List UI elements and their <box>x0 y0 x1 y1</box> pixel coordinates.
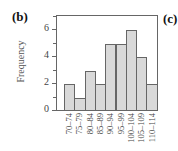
histogram-plot-area <box>56 15 158 111</box>
y-axis-label: Frequency <box>15 32 26 92</box>
x-tick-label: 85–89 <box>95 113 105 134</box>
x-tick-label: 95–99 <box>116 113 126 134</box>
x-tick-label: 110–114 <box>147 113 157 142</box>
y-tick-label: 6 <box>37 22 49 33</box>
panel-label-b: (b) <box>12 9 28 25</box>
x-tick-label: 70–74 <box>64 113 74 134</box>
y-major-tick <box>52 83 56 84</box>
panel-label-c: (c) <box>163 11 177 27</box>
y-minor-tick <box>53 16 56 17</box>
y-minor-tick <box>53 43 56 44</box>
y-tick-label: 4 <box>37 49 49 60</box>
y-minor-tick <box>53 97 56 98</box>
y-major-tick <box>52 56 56 57</box>
x-tick-label: 80–84 <box>85 113 95 134</box>
y-tick-label: 2 <box>37 76 49 87</box>
y-major-tick <box>52 110 56 111</box>
x-tick-label: 105–109 <box>136 113 146 143</box>
y-minor-tick <box>53 70 56 71</box>
x-tick-label: 75–79 <box>74 113 84 134</box>
histogram-bar <box>146 84 157 111</box>
y-tick-label: 0 <box>37 103 49 114</box>
x-tick-label: 100–104 <box>126 113 136 143</box>
x-tick-label: 90–94 <box>105 113 115 134</box>
y-major-tick <box>52 29 56 30</box>
